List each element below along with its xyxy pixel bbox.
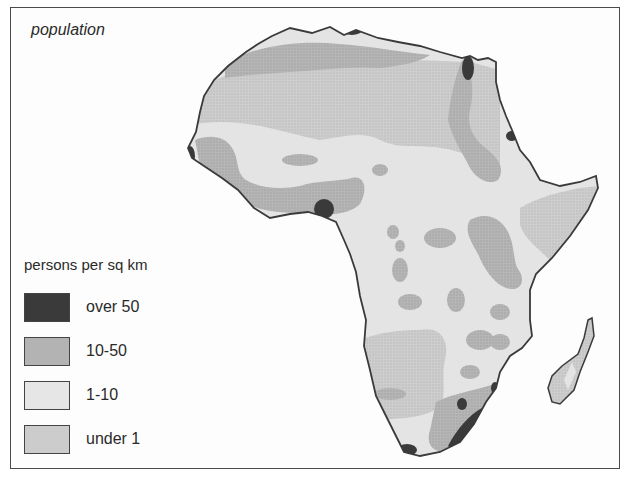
legend-title: persons per sq km [24,256,147,273]
legend-label: under 1 [86,430,140,448]
legend-label: 10-50 [86,342,127,360]
madagascar [548,318,594,404]
legend-swatch-under-1 [24,425,70,454]
legend: persons per sq km over 50 10-50 1-10 und… [24,256,147,461]
legend-item-over-50: over 50 [24,285,147,329]
legend-item-under-1: under 1 [24,417,147,461]
legend-item-1-10: 1-10 [24,373,147,417]
map-title: population [31,21,105,39]
legend-swatch-1-10 [24,381,70,410]
legend-label: 1-10 [86,386,118,404]
legend-swatch-10-50 [24,337,70,366]
legend-swatch-over-50 [24,293,70,322]
legend-item-10-50: 10-50 [24,329,147,373]
legend-label: over 50 [86,298,139,316]
